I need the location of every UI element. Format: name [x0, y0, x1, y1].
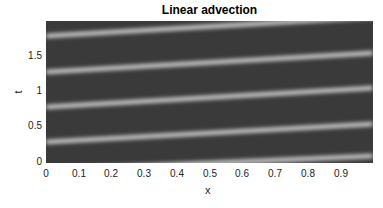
- x-tick: 0.3: [137, 168, 151, 179]
- x-axis-label: x: [205, 184, 211, 196]
- x-tick: 0.1: [72, 168, 86, 179]
- x-tick: 0.8: [301, 168, 315, 179]
- y-tick: 0.5: [28, 120, 42, 131]
- x-tick: 0.6: [235, 168, 249, 179]
- y-tick: 0: [36, 156, 42, 167]
- x-tick: 0.4: [170, 168, 184, 179]
- heatmap-bands: [46, 21, 373, 163]
- y-axis-label: t: [12, 90, 24, 93]
- heatmap-plot-area: [46, 21, 373, 163]
- x-tick: 0.9: [334, 168, 348, 179]
- x-tick: 0.2: [104, 168, 118, 179]
- chart-title: Linear advection: [46, 3, 373, 17]
- x-tick: 0.5: [203, 168, 217, 179]
- y-tick: 1: [36, 85, 42, 96]
- x-tick: 0.7: [268, 168, 282, 179]
- x-tick: 0: [43, 168, 49, 179]
- y-tick: 1.5: [28, 50, 42, 61]
